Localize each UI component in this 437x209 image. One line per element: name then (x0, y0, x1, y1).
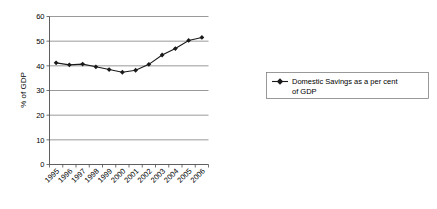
y-tick-label: 0 (40, 160, 44, 169)
data-point-marker (54, 60, 59, 65)
y-tick-label: 20 (36, 111, 44, 120)
y-tick-label: 60 (36, 12, 44, 21)
y-tick-label: 50 (36, 37, 44, 46)
data-point-marker (199, 35, 204, 40)
data-point-marker (173, 46, 178, 51)
x-tick-label: 2006 (189, 167, 207, 185)
chart-canvas: 0102030405060 19951996199719981999200020… (0, 0, 437, 209)
series-line-domestic-savings (56, 37, 202, 72)
data-point-marker (93, 64, 98, 69)
y-tick-label: 10 (36, 136, 44, 145)
legend-label-line2: of GDP (292, 87, 317, 96)
data-point-marker (120, 70, 125, 75)
legend-label-line1: Domestic Savings as a per cent (292, 77, 398, 86)
y-tick-label: 40 (36, 62, 44, 71)
gridlines-group (50, 17, 209, 140)
x-axis-tick-labels: 1995199619971998199920002001200220032004… (43, 167, 207, 185)
legend: Domestic Savings as a per cent of GDP (267, 73, 429, 99)
data-point-marker (133, 68, 138, 73)
line-chart: 0102030405060 19951996199719981999200020… (0, 0, 437, 209)
y-axis-tick-labels: 0102030405060 (36, 12, 44, 169)
data-point-marker (67, 62, 72, 67)
y-tick-label: 30 (36, 86, 44, 95)
y-axis-title: % of GDP (19, 72, 28, 108)
data-point-marker (107, 67, 112, 72)
